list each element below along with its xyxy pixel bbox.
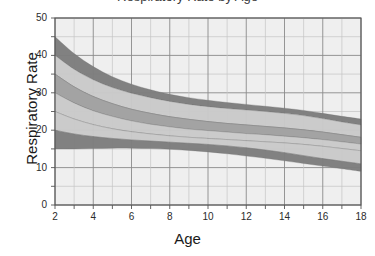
y-tick-label: 50 (17, 13, 47, 23)
x-tick-label: 8 (158, 212, 182, 222)
x-tick-label: 6 (120, 212, 144, 222)
y-tick-label: 0 (17, 200, 47, 210)
x-tick-label: 10 (196, 212, 220, 222)
y-tick-label: 20 (17, 125, 47, 135)
x-tick-label: 12 (234, 212, 258, 222)
y-tick-label: 30 (17, 88, 47, 98)
respiratory-rate-chart: Respiratory Rate by Age Respiratory Rate… (0, 0, 375, 256)
x-tick-label: 4 (81, 212, 105, 222)
chart-title: Respiratory Rate by Age (0, 0, 375, 4)
x-tick-label: 18 (349, 212, 373, 222)
chart-title-strip: Respiratory Rate by Age (0, 0, 375, 8)
x-tick-label: 2 (43, 212, 67, 222)
x-tick-label: 14 (273, 212, 297, 222)
x-axis-label: Age (0, 230, 375, 247)
x-tick-label: 16 (311, 212, 335, 222)
y-tick-label: 40 (17, 50, 47, 60)
y-tick-label: 10 (17, 163, 47, 173)
